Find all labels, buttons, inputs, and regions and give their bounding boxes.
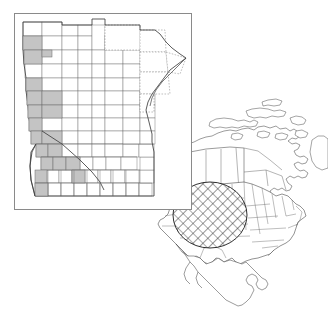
county-lac-qui-parle-east [53,157,66,170]
minnesota-inset [0,0,328,319]
county-yellow-medicine [66,157,80,170]
county-norman [27,91,42,105]
county-big-stone-east [48,144,62,157]
county-traverse [31,131,42,144]
county-clay-east [42,105,62,118]
county-clay [28,105,42,118]
county-lincoln [35,170,47,183]
county-norman-east [42,91,62,105]
county-big-stone [36,144,48,157]
county-lac-qui-parle [41,157,53,170]
county-marshall-east-notch [42,50,52,57]
county-marshall [24,50,42,64]
county-kittson [23,36,42,50]
county-lyon [35,183,48,196]
range-map-figure [0,0,328,319]
county-wilkin [29,118,42,131]
county-polk [26,78,42,91]
